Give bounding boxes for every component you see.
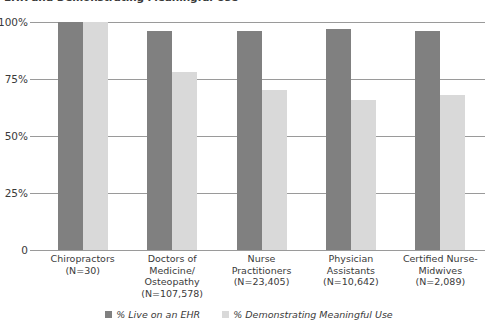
bar-group xyxy=(396,22,485,250)
bar xyxy=(326,29,351,250)
x-axis-label-count: (N=107,578) xyxy=(128,288,215,300)
chart-title: EHR and Demonstrating Meaningful Use xyxy=(4,0,484,5)
x-axis-label-count: (N=10,642) xyxy=(307,276,394,288)
y-tick-mark xyxy=(30,136,38,137)
x-axis-label-name: Certified Nurse-Midwives xyxy=(403,253,478,276)
y-tick-label: 100% xyxy=(0,16,28,28)
legend-swatch-icon xyxy=(222,311,229,318)
x-axis-label-name: Doctors of Medicine/ Osteopathy xyxy=(145,253,200,287)
plot-area: 100%75%50%25%0 xyxy=(38,22,485,250)
bar xyxy=(58,22,83,250)
x-axis-label: Physician Assistants(N=10,642) xyxy=(306,253,395,299)
x-axis-label-count: (N=30) xyxy=(39,265,126,277)
bar-group xyxy=(127,22,216,250)
bar xyxy=(147,31,172,250)
legend-item[interactable]: % Demonstrating Meaningful Use xyxy=(222,309,392,320)
legend-label: % Live on an EHR xyxy=(116,309,200,320)
x-axis-label-count: (N=23,405) xyxy=(218,276,305,288)
y-tick-label: 25% xyxy=(5,187,28,199)
y-tick-mark xyxy=(30,193,38,194)
y-tick-label: 0 xyxy=(21,244,28,256)
y-tick-mark xyxy=(30,250,38,251)
bars-layer xyxy=(38,22,485,250)
bar-group xyxy=(38,22,127,250)
chart-legend: % Live on an EHR% Demonstrating Meaningf… xyxy=(0,309,498,320)
x-axis-labels: Chiropractors(N=30)Doctors of Medicine/ … xyxy=(38,253,485,299)
x-axis-label-count: (N=2,089) xyxy=(397,276,484,288)
y-tick-label: 50% xyxy=(5,130,28,142)
x-axis-label: Doctors of Medicine/ Osteopathy(N=107,57… xyxy=(127,253,216,299)
x-axis-label: Chiropractors(N=30) xyxy=(38,253,127,299)
legend-swatch-icon xyxy=(105,311,112,318)
y-tick-mark xyxy=(30,79,38,80)
legend-item[interactable]: % Live on an EHR xyxy=(105,309,200,320)
y-gridline-row: 0 xyxy=(38,250,485,251)
bar-chart: EHR and Demonstrating Meaningful Use 100… xyxy=(0,0,498,331)
bar-group xyxy=(217,22,306,250)
x-axis-label-name: Nurse Practitioners xyxy=(232,253,292,276)
bar xyxy=(83,22,108,250)
x-axis-label-name: Chiropractors xyxy=(51,253,115,264)
y-tick-label: 75% xyxy=(5,73,28,85)
bar-group xyxy=(306,22,395,250)
x-axis-label: Nurse Practitioners(N=23,405) xyxy=(217,253,306,299)
bar xyxy=(262,90,287,250)
x-axis-label-name: Physician Assistants xyxy=(327,253,375,276)
legend-label: % Demonstrating Meaningful Use xyxy=(233,309,392,320)
bar xyxy=(440,95,465,250)
y-tick-mark xyxy=(30,22,38,23)
x-axis-label: Certified Nurse-Midwives(N=2,089) xyxy=(396,253,485,299)
bar xyxy=(351,100,376,250)
bar xyxy=(415,31,440,250)
bar xyxy=(237,31,262,250)
axis-baseline xyxy=(38,250,485,251)
bar xyxy=(172,72,197,250)
